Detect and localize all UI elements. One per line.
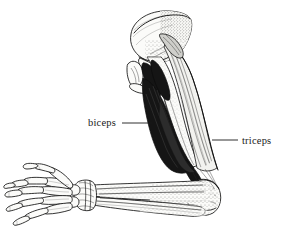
arm-anatomy-illustration: biceps triceps (0, 0, 287, 235)
triceps-label: triceps (242, 135, 271, 146)
biceps-label: biceps (88, 117, 116, 128)
anatomy-figure: biceps triceps (0, 0, 287, 235)
